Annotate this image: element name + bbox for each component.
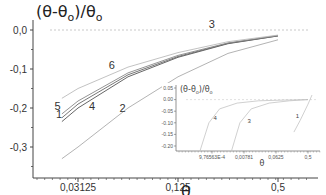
chart-canvas: 0,0-0,1-0,2-0,30,031250,1250,5(θ-θo)/θoθ… xyxy=(0,0,326,195)
y-tick-label: -0,2 xyxy=(10,103,28,114)
inset-y-tick-label: 0.05 xyxy=(163,85,173,91)
x-axis-title: θ xyxy=(181,182,191,195)
y-tick-label: -0,3 xyxy=(10,142,28,153)
inset-y-tick-label: 0.00 xyxy=(163,96,173,102)
x-tick-label: 0,03125 xyxy=(60,182,97,193)
inset-x-tick-label: 9,76563E-4 xyxy=(199,154,225,160)
y-tick-label: -0,1 xyxy=(10,64,28,75)
y-tick-label: 0,0 xyxy=(13,25,27,36)
x-tick-label: 0,5 xyxy=(271,182,285,193)
inset-x-tick-label: 0,0625 xyxy=(268,154,284,160)
curve-label-6: 6 xyxy=(109,59,115,71)
curve-label-2: 2 xyxy=(120,102,126,114)
inset-y-tick-label: -0.20 xyxy=(162,143,174,149)
inset-y-tick-label: -0.10 xyxy=(162,120,174,126)
inset-x-axis-title: θ xyxy=(260,159,265,168)
inset-y-tick-label: -0.05 xyxy=(162,108,174,114)
curve-label-5: 5 xyxy=(54,100,60,112)
inset-y-tick-label: -0.15 xyxy=(162,131,174,137)
inset-plot: 0.050.00-0.05-0.10-0.15-0.209,76563E-40,… xyxy=(162,83,322,171)
inset-x-tick-label: 0,00781 xyxy=(235,154,253,160)
inset-x-tick-label: 0,5 xyxy=(305,154,312,160)
y-axis-title: (θ-θo)/θo xyxy=(36,2,103,24)
curve-label-3: 3 xyxy=(209,18,215,30)
curve-label-4: 4 xyxy=(89,100,95,112)
